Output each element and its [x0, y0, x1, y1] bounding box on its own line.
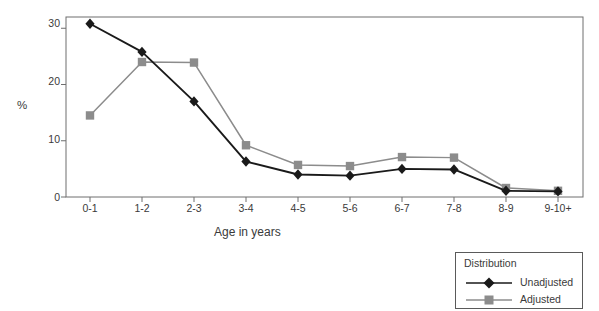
x-axis-title: Age in years — [214, 225, 281, 239]
legend-title: Distribution — [464, 257, 517, 269]
y-axis-tick-label-0: 0 — [38, 191, 60, 203]
x-axis-tick-label-0-1: 0-1 — [70, 202, 110, 214]
x-axis-tick-label-5-6: 5-6 — [330, 202, 370, 214]
y-axis-title: % — [17, 99, 27, 111]
x-axis-tick-label-8-9: 8-9 — [486, 202, 526, 214]
x-axis-tick-label-1-2: 1-2 — [122, 202, 162, 214]
x-axis-tick-label-4-5: 4-5 — [278, 202, 318, 214]
y-axis-tick-label-10: 10 — [38, 133, 60, 145]
x-axis-tick-label-6-7: 6-7 — [382, 202, 422, 214]
legend-marker-diamond-icon — [464, 275, 514, 291]
legend-label-unadjusted: Unadjusted — [520, 276, 573, 288]
line-chart-figure: 30 20 10 0 % 0-1 1-2 2-3 3-4 4-5 5-6 6-7… — [0, 0, 599, 311]
legend: Distribution Unadjusted Adjusted — [455, 252, 583, 309]
x-axis-tick-label-7-8: 7-8 — [434, 202, 474, 214]
legend-marker-square-icon — [464, 292, 514, 308]
y-axis-tick-label-20: 20 — [38, 75, 60, 87]
x-axis-tick-label-9-10plus: 9-10+ — [534, 202, 582, 214]
x-axis-tick-label-2-3: 2-3 — [174, 202, 214, 214]
x-axis-tick-label-3-4: 3-4 — [226, 202, 266, 214]
y-axis-tick-label-30: 30 — [38, 17, 60, 29]
legend-label-adjusted: Adjusted — [520, 293, 561, 305]
